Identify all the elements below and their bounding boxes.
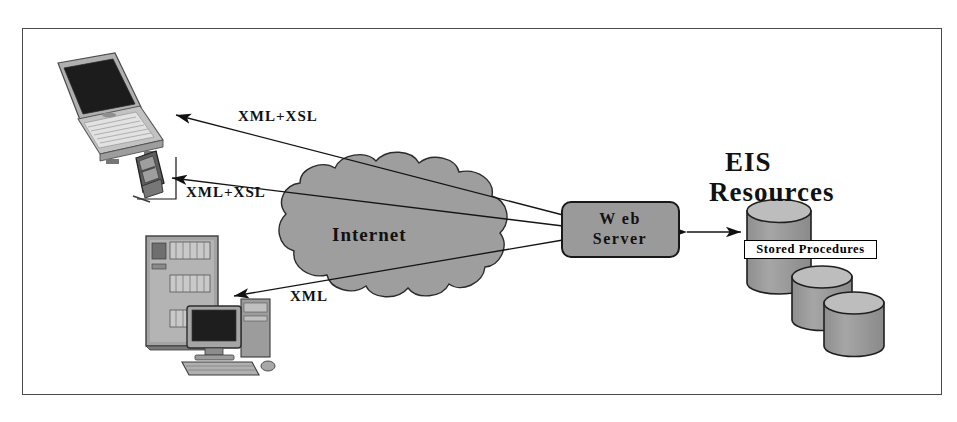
eis-title-line2: Resources [709,177,834,207]
internet-cloud-label: Internet [332,224,406,246]
stored-procedures-box[interactable]: Stored Procedures [744,240,877,259]
label-xml-xsl-laptop: XML+XSL [238,108,318,125]
label-xml-xsl-pda: XML+XSL [186,184,266,201]
label-xml-desktop: XML [290,288,328,305]
eis-resources-title: EIS Resources [725,147,834,207]
desktop-pc-client[interactable] [182,299,275,375]
diagram-canvas: XML+XSL XML+XSL XML Internet W eb Server… [0,0,957,422]
diagram-graphics [0,0,957,422]
pda-client[interactable] [133,151,164,202]
database-cylinder-3[interactable] [824,292,884,357]
web-server-box[interactable] [562,202,679,257]
laptop-client[interactable] [58,53,163,164]
eis-title-line1: EIS [725,147,772,177]
stored-procedures-label: Stored Procedures [756,242,864,257]
